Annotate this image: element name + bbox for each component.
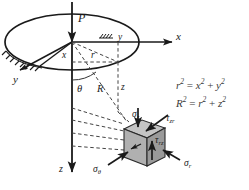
radius-r-line [72,42,118,62]
z-axis-bottom-label: z [58,163,63,174]
y-axis-label: y [12,73,18,85]
boussinesq-figure: P x y x r y θ R z z σz τzr τrz σr [0,0,249,190]
sigma-theta-label: σθ [93,164,102,175]
projection-rays [72,108,129,150]
equation-R-squared: R2 = r2 + z2 [176,94,248,112]
surface-solid-chord [40,42,72,66]
theta-label: θ [77,83,82,94]
depth-z-label: z [120,82,125,92]
x-axis-label: x [175,30,181,42]
slant-R-line [72,42,127,122]
sigma-r-label: σr [184,158,192,169]
theta-angle-arc [72,72,96,80]
equation-r-squared: r2 = x2 + y2 [176,76,248,94]
radial-y-label: y [117,32,123,42]
radial-r-label: r [91,50,95,60]
tau-zr-label: τzr [166,113,175,124]
sigma-theta-arrow [108,152,128,165]
radial-x-label: x [61,50,67,60]
angle-hatch-marker [99,34,113,38]
slant-R-label: R [96,83,104,94]
load-label: P [77,11,86,25]
relations-block: r2 = x2 + y2 R2 = r2 + z2 [176,76,248,111]
